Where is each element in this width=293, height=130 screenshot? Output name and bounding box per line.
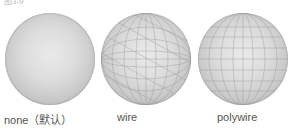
sphere-wire: [101, 13, 191, 105]
cropped-caption: 图3-9: [4, 0, 24, 6]
label-polywire: polywire: [217, 111, 257, 123]
label-none: none（默认）: [4, 111, 72, 127]
polywire-overlay: [198, 13, 288, 105]
sphere-none: [5, 13, 95, 105]
wireframe-overlay: [101, 13, 191, 105]
label-wire: wire: [117, 111, 137, 123]
sphere-polywire: [198, 13, 288, 105]
